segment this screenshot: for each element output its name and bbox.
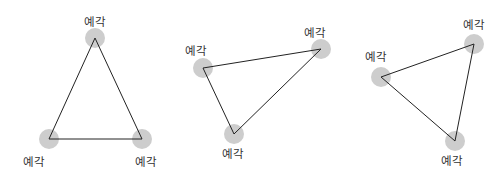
triangle-edges — [381, 44, 474, 141]
vertex-label: 예각 — [23, 155, 45, 169]
scalene-acute-triangle-3: 예각예각예각 — [365, 18, 485, 168]
diagram-svg: 예각예각예각예각예각예각예각예각예각 — [0, 0, 503, 180]
vertex-label: 예각 — [304, 26, 326, 40]
triangle-edges — [49, 38, 142, 139]
scalene-acute-triangle-2: 예각예각예각 — [185, 26, 331, 161]
vertex-label: 예각 — [185, 44, 207, 58]
vertex-label: 예각 — [135, 155, 157, 169]
vertex-label: 예각 — [222, 147, 244, 161]
equilateral-acute-triangle: 예각예각예각 — [23, 15, 157, 169]
triangle-edges — [203, 49, 321, 134]
vertex-label: 예각 — [463, 18, 485, 32]
vertex-label: 예각 — [365, 50, 387, 64]
acute-triangles-diagram: 예각예각예각예각예각예각예각예각예각 — [0, 0, 503, 180]
vertex-label: 예각 — [84, 15, 106, 29]
vertex-label: 예각 — [441, 154, 463, 168]
